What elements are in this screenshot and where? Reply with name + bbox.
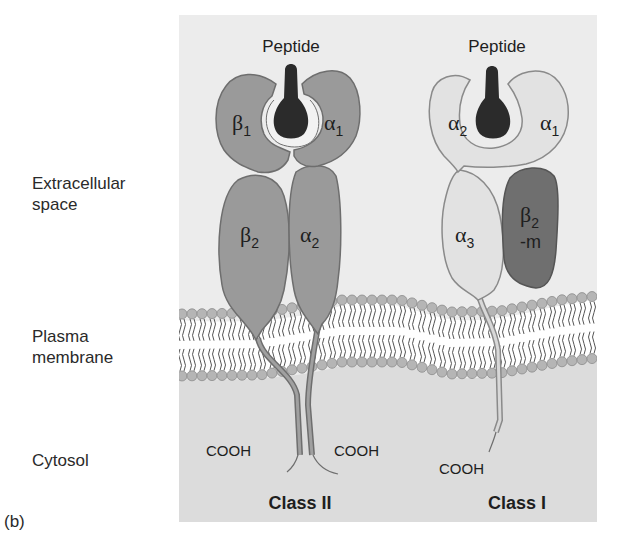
class-ii-title: Class II (268, 493, 331, 513)
mhc-diagram: Peptide β1 α1 β2 α2 COOH COOH Class II P… (0, 0, 621, 555)
cooh-label-alpha: COOH (334, 442, 379, 459)
peptide-label-class-ii: Peptide (262, 37, 320, 56)
cooh-label-beta: COOH (206, 442, 251, 459)
class-i-title: Class I (488, 493, 546, 513)
b2m-suffix-label: -m (520, 232, 541, 252)
cooh-label-class-i: COOH (439, 460, 484, 477)
peptide-label-class-i: Peptide (468, 37, 526, 56)
beta2-microglobulin-domain (502, 168, 558, 288)
